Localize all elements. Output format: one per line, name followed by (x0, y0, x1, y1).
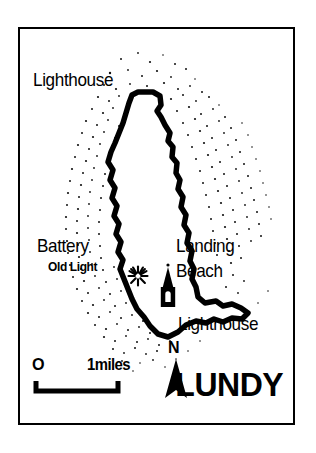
label-lighthouse-north: Lighthouse (33, 70, 113, 89)
label-landing-beach-line1: Landing (176, 236, 234, 255)
scale-bar-max-label: 1miles (87, 356, 130, 374)
label-old-light: Old Light (48, 260, 97, 273)
label-battery: Battery (37, 236, 89, 255)
label-lighthouse-south: Lighthouse (178, 314, 258, 333)
map-frame-border: Lighthouse Battery Old Light Landing Bea… (18, 27, 295, 425)
scale-bar: O 1miles (32, 355, 148, 401)
scale-bar-graphic (32, 379, 142, 397)
map-figure: Lighthouse Battery Old Light Landing Bea… (0, 0, 316, 453)
compass-north-label: N (168, 339, 180, 357)
scale-bar-zero-label: O (32, 355, 45, 375)
map-title: LUNDY (175, 368, 283, 401)
island-coastline-outline (108, 92, 248, 337)
label-landing-beach-line2: Beach (176, 261, 223, 280)
